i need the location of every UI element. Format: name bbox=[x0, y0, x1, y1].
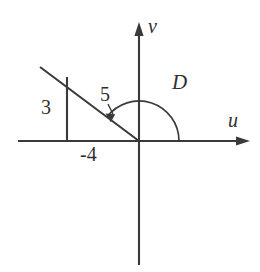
v-axis-label: v bbox=[148, 16, 157, 36]
v-axis bbox=[134, 22, 143, 265]
angle-label-d: D bbox=[172, 72, 187, 93]
vertical-leg-length-label: 3 bbox=[41, 97, 51, 117]
hypotenuse-length-label: 5 bbox=[100, 84, 110, 104]
u-axis-label: u bbox=[228, 110, 238, 130]
diagram-canvas bbox=[0, 0, 260, 272]
vector-diagram: v u D 3 5 -4 bbox=[0, 0, 260, 272]
u-axis-arrowhead-icon bbox=[236, 136, 250, 145]
v-axis-arrowhead-icon bbox=[134, 22, 143, 36]
angle-arc bbox=[107, 101, 179, 141]
x-intercept-label: -4 bbox=[80, 144, 97, 164]
